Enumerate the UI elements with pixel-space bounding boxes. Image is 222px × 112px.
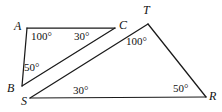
angle-at-S: 30°	[73, 85, 88, 96]
angle-at-B: 50°	[24, 62, 39, 73]
angle-at-T: 100°	[126, 36, 147, 47]
angle-at-C: 30°	[74, 31, 89, 42]
geometry-figure: ACTBSR 100°30°50°100°30°50°	[0, 0, 222, 112]
segment-SR	[30, 97, 206, 98]
vertex-label-T: T	[143, 4, 150, 16]
figure-canvas	[0, 0, 222, 112]
vertex-label-R: R	[209, 90, 216, 102]
vertex-label-S: S	[21, 95, 27, 107]
segment-AB	[22, 28, 27, 86]
angle-at-A: 100°	[31, 31, 52, 42]
vertex-label-C: C	[119, 19, 127, 31]
vertex-label-A: A	[14, 20, 21, 32]
vertex-label-B: B	[7, 82, 14, 94]
angle-at-R: 50°	[173, 83, 188, 94]
